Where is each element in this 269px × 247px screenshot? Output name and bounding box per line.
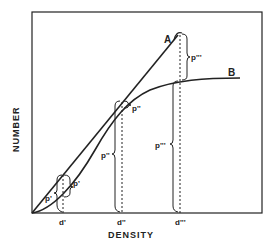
x-marker-label-d2: d'' [117, 218, 126, 227]
x-marker-label-d3: d''' [175, 218, 186, 227]
plot-frame [32, 12, 262, 213]
brace-p1-right [64, 175, 73, 197]
brace-label-p3-left: p''' [155, 141, 166, 150]
line-a [32, 35, 178, 213]
brace-p3-right [182, 34, 190, 80]
brace-label-p1-left: p' [45, 194, 52, 203]
x-marker-label-d1: d' [59, 218, 66, 227]
brace-label-p3-right: p''' [191, 53, 202, 62]
brace-label-p2-right: p'' [132, 104, 141, 113]
curve-label-b: B [228, 67, 235, 78]
x-axis-label: DENSITY [108, 230, 154, 240]
density-number-diagram: A B p' p' p'' p'' p''' p''' d' d'' d''' … [0, 0, 269, 247]
curve-label-a: A [164, 34, 171, 45]
brace-label-p2-left: p'' [101, 151, 110, 160]
brace-label-p1-right: p' [73, 179, 80, 188]
brace-p3-left [170, 81, 178, 212]
y-axis-label: NUMBER [11, 107, 21, 153]
